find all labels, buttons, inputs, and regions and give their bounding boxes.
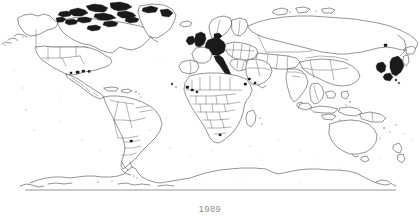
map-caption: 1989 (0, 196, 420, 222)
world-map-svg[interactable] (0, 0, 420, 196)
world-map-figure: 1989 (0, 0, 420, 222)
year-label: 1989 (199, 205, 221, 214)
region-south-asia (246, 53, 386, 122)
region-africa (171, 73, 263, 143)
region-antarctica (20, 162, 396, 190)
map-canvas[interactable] (0, 0, 420, 196)
region-south-america (104, 96, 162, 179)
region-north-america (2, 2, 192, 99)
region-oceania (329, 120, 413, 163)
region-japan-korea (376, 56, 404, 84)
